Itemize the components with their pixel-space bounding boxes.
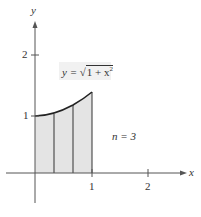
plot-canvas <box>0 0 201 217</box>
y-axis-label: y <box>31 5 36 16</box>
x-tick-label-1: 1 <box>89 181 95 192</box>
y-tick-label-2: 2 <box>22 49 28 60</box>
area-diagram: y x 1 2 1 2 y = √1 + x2 n = 3 <box>0 0 201 217</box>
equation-exponent: 2 <box>110 65 114 73</box>
y-axis-arrow-icon <box>33 21 38 28</box>
shaded-region <box>35 92 92 173</box>
subinterval-count-label: n = 3 <box>112 131 136 142</box>
y-tick-label-1: 1 <box>23 110 29 121</box>
x-axis-arrow-icon <box>180 171 187 176</box>
x-tick-label-2: 2 <box>145 181 151 192</box>
equation-lhs: y = <box>62 66 80 78</box>
equation-radicand: 1 + x <box>87 66 110 78</box>
x-axis-label: x <box>189 167 194 178</box>
curve-equation-label: y = √1 + x2 <box>62 65 113 78</box>
